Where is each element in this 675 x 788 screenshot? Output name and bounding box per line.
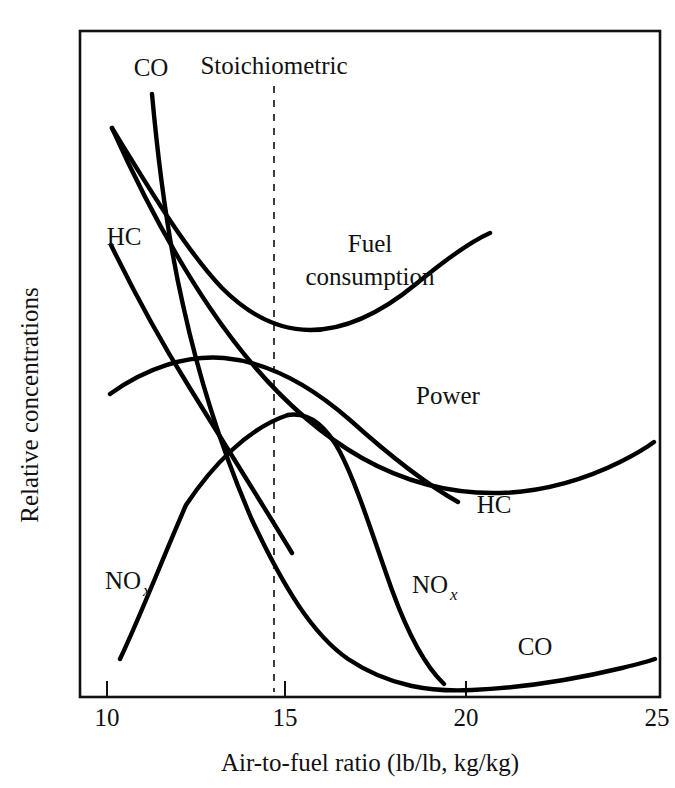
x-tick-label-15: 15 [273,704,298,731]
x-tick-label-10: 10 [95,704,120,731]
curve-label-nox-right: NO x [412,571,458,604]
curve-label-power: Power [416,382,481,409]
curve-label-hc-top: HC [107,223,142,250]
curve-label-nox-left: NO x [105,567,151,600]
curve-nox-rise [120,415,288,659]
y-axis-title: Relative concentrations [16,287,43,522]
stoichiometric-label: Stoichiometric [200,52,347,79]
curve-label-fuel-consumption-line1: Fuel [348,230,393,257]
curve-label-co-bottom: CO [518,633,553,660]
curve-label-nox-left-sub: x [142,581,151,600]
curve-label-hc-right: HC [477,491,512,518]
curve-nox-fall [288,415,444,684]
x-axis-title: Air-to-fuel ratio (lb/lb, kg/kg) [221,749,519,777]
chart-canvas: 10 15 20 25 Air-to-fuel ratio (lb/lb, kg… [0,0,675,788]
chart-figure: 10 15 20 25 Air-to-fuel ratio (lb/lb, kg… [0,0,675,788]
curve-label-nox-left-base: NO [105,567,141,594]
x-tick-label-25: 25 [645,704,670,731]
curve-co-lower [252,520,655,690]
curve-label-fuel-consumption-line2: consumption [305,263,435,290]
x-tick-label-20: 20 [454,704,479,731]
curve-co-upper [152,94,252,520]
curve-hc-main [112,128,654,493]
curve-label-nox-right-base: NO [412,571,448,598]
curve-label-nox-right-sub: x [449,585,458,604]
curve-label-co-top: CO [134,54,169,81]
